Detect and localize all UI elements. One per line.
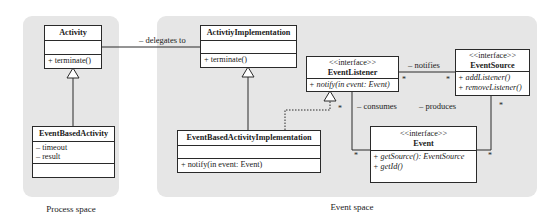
operations-section: + notify(in event: Event) (307, 79, 398, 91)
operation: + notify(in event: Event) (309, 80, 396, 90)
class-header: EventBasedActivity (33, 127, 114, 142)
inheritance-triangle-activity-icon (67, 68, 79, 78)
class-name: EventBasedActivity (35, 129, 112, 139)
realization-triangle-icon (324, 91, 336, 101)
operation: + addListener() (458, 73, 527, 83)
attributes-section (178, 146, 320, 159)
operations-section: + addListener() + removeListener() (456, 72, 529, 93)
operation: + removeListener() (458, 83, 527, 93)
operation: + getId() (373, 162, 474, 172)
class-header: ActivtiyImplementation (201, 26, 296, 41)
attributes-section (201, 41, 296, 54)
class-name: Activity (47, 28, 99, 38)
class-name: Event (373, 139, 474, 149)
class-activity[interactable]: Activity + terminate() (44, 25, 102, 69)
operations-section: + getSource(): EventSource + getId() (371, 151, 476, 172)
operations-section: + terminate() (45, 55, 101, 67)
notifies-label: – notifies (408, 60, 440, 70)
notifies-mult-source: * (446, 75, 450, 84)
stereotype: <<interface>> (458, 51, 527, 61)
attributes-section (45, 41, 101, 55)
class-name: EventBasedActivityImplementation (180, 133, 318, 143)
class-header: <<interface>> EventListener (307, 57, 398, 79)
operations-section (33, 164, 114, 175)
produces-line (476, 95, 491, 150)
interface-event-listener[interactable]: <<interface>> EventListener + notify(in … (306, 56, 399, 92)
interface-event-source[interactable]: <<interface>> EventSource + addListener(… (455, 49, 530, 96)
operations-section: + notify(in event: Event) (178, 159, 320, 171)
realization-mult: * (338, 104, 342, 113)
class-name: EventSource (458, 61, 527, 71)
class-event-based-activity-implementation[interactable]: EventBasedActivityImplementation + notif… (177, 130, 321, 173)
delegates-to-label: – delegates to (139, 35, 186, 45)
consumes-label: – consumes (357, 101, 397, 111)
operation: + getSource(): EventSource (373, 152, 474, 162)
produces-mult-event: * (488, 151, 492, 160)
class-activity-implementation[interactable]: ActivtiyImplementation + terminate() (200, 25, 297, 68)
interface-event[interactable]: <<interface>> Event + getSource(): Event… (370, 126, 477, 183)
produces-label: – produces (419, 101, 456, 111)
operation: + notify(in event: Event) (181, 160, 317, 170)
consumes-mult-event: * (354, 151, 358, 160)
stereotype: <<interface>> (373, 129, 474, 139)
class-header: <<interface>> Event (371, 127, 476, 151)
class-name: EventListener (309, 68, 396, 78)
class-header: Activity (45, 26, 101, 41)
consumes-line (352, 91, 370, 150)
produces-mult-source: * (499, 101, 503, 110)
class-name: ActivtiyImplementation (203, 28, 294, 38)
realization-line (285, 101, 330, 130)
stereotype: <<interface>> (309, 58, 396, 68)
operations-section: + terminate() (201, 54, 296, 66)
attribute: – result (36, 152, 111, 162)
inheritance-triangle-impl-icon (242, 67, 254, 77)
attribute: – timeout (36, 143, 111, 153)
attributes-section: – timeout – result (33, 142, 114, 164)
class-header: <<interface>> EventSource (456, 50, 529, 72)
operation: + terminate() (204, 55, 293, 65)
class-header: EventBasedActivityImplementation (178, 131, 320, 146)
notifies-mult-listener: * (402, 75, 406, 84)
class-event-based-activity[interactable]: EventBasedActivity – timeout – result (32, 126, 115, 178)
operation: + terminate() (48, 56, 98, 66)
